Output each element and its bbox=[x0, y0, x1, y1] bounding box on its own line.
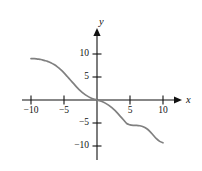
x-tick-label-neg10: −10 bbox=[24, 106, 39, 116]
x-axis-arrowhead bbox=[174, 96, 182, 103]
x-tick-label-pos5: 5 bbox=[128, 106, 133, 116]
x-tick-label-pos10: 10 bbox=[158, 106, 168, 116]
y-tick-label-neg10: −10 bbox=[74, 141, 89, 151]
x-tick-label-neg5: −5 bbox=[59, 106, 69, 116]
x-axis-label: x bbox=[186, 95, 191, 106]
graph-figure: −10 −5 5 10 10 5 −5 −10 x y bbox=[0, 0, 202, 171]
y-tick-label-pos5: 5 bbox=[84, 72, 89, 82]
y-axis-label: y bbox=[99, 17, 104, 28]
y-tick-label-neg5: −5 bbox=[79, 118, 89, 128]
y-axis-arrowhead bbox=[93, 28, 100, 36]
y-tick-label-pos10: 10 bbox=[80, 49, 90, 59]
